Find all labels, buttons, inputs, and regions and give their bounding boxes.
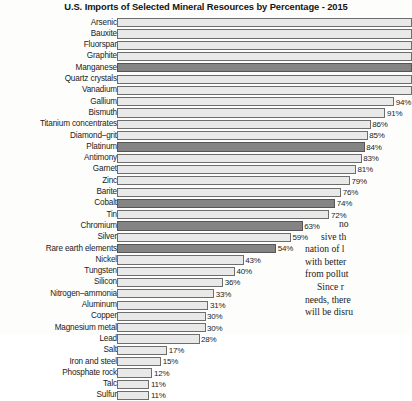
bar[interactable] — [117, 380, 149, 389]
body-text-line: Since r — [305, 281, 412, 294]
bar[interactable] — [117, 301, 208, 310]
body-text-line: no — [305, 218, 412, 231]
category-label: Fluorspar — [0, 40, 117, 50]
category-label: Magnesium metal — [0, 323, 117, 333]
category-label: Titanium concentrates — [0, 119, 117, 129]
bar[interactable] — [117, 368, 152, 377]
bar-value-label: 76% — [343, 188, 358, 197]
bar[interactable] — [117, 255, 244, 264]
bar-track: 94% — [117, 97, 412, 106]
bar[interactable] — [117, 267, 235, 276]
bar[interactable] — [117, 154, 362, 163]
bar-value-label: 28% — [201, 335, 216, 344]
bar[interactable] — [117, 120, 371, 129]
bar-track — [117, 52, 412, 61]
category-label: Nickel — [0, 255, 117, 265]
bar[interactable] — [117, 244, 276, 253]
category-label: Zinc — [0, 176, 117, 186]
category-label: Bismuth — [0, 108, 117, 118]
bar[interactable] — [117, 346, 167, 355]
bar-track — [117, 41, 412, 50]
bar-value-label: 83% — [363, 154, 378, 163]
bar-value-label: 81% — [357, 165, 372, 174]
bar[interactable] — [117, 289, 214, 298]
category-label: Talc — [0, 379, 117, 389]
bar[interactable] — [117, 188, 341, 197]
bar[interactable] — [117, 323, 206, 332]
chart-row: Sulfur11% — [0, 390, 412, 401]
category-label: Graphite — [0, 51, 117, 61]
chart-row: Quartz crystals — [0, 74, 412, 85]
bar[interactable] — [117, 165, 356, 174]
chart-row: Zinc79% — [0, 175, 412, 186]
bar[interactable] — [117, 86, 412, 95]
bar-value-label: 11% — [151, 391, 166, 400]
bar-value-label: 11% — [151, 380, 166, 389]
bar-track: 74% — [117, 199, 412, 208]
bar-value-label: 36% — [225, 278, 240, 287]
bar[interactable] — [117, 131, 368, 140]
bar-value-label: 85% — [369, 131, 384, 140]
chart-row: Magnesium metal30% — [0, 322, 412, 333]
category-label: Quartz crystals — [0, 74, 117, 84]
page-body-text: nosive thnation of lwith betterfrom poll… — [305, 218, 412, 319]
category-label: Platinum — [0, 142, 117, 152]
chart-row: Titanium concentrates86% — [0, 119, 412, 130]
bar[interactable] — [117, 108, 385, 117]
category-label: Vanadium — [0, 85, 117, 95]
chart-row: Arsenic — [0, 17, 412, 28]
bar-value-label: 40% — [237, 267, 252, 276]
category-label: Salt — [0, 345, 117, 355]
category-label: Phosphate rock — [0, 368, 117, 378]
category-label: Diamond–grit — [0, 131, 117, 141]
chart-row: Bauxite — [0, 28, 412, 39]
category-label: Gallium — [0, 97, 117, 107]
category-label: Copper — [0, 311, 117, 321]
bar[interactable] — [117, 357, 161, 366]
bar-track — [117, 29, 412, 38]
bar-track: 30% — [117, 323, 412, 332]
bar[interactable] — [117, 75, 412, 84]
bar[interactable] — [117, 221, 303, 230]
body-text-line: will be disru — [305, 306, 412, 319]
bar-value-label: 33% — [216, 290, 231, 299]
chart-row: Bismuth91% — [0, 107, 412, 118]
bar[interactable] — [117, 312, 206, 321]
bar[interactable] — [117, 176, 350, 185]
bar-value-label: 12% — [154, 369, 169, 378]
chart-row: Diamond–grit85% — [0, 130, 412, 141]
bar[interactable] — [117, 63, 412, 72]
bar[interactable] — [117, 199, 335, 208]
bar[interactable] — [117, 334, 200, 343]
bar-track: 91% — [117, 108, 412, 117]
bar-track — [117, 75, 412, 84]
bar[interactable] — [117, 278, 223, 287]
category-label: Tungsten — [0, 266, 117, 276]
category-label: Silver — [0, 232, 117, 242]
bar[interactable] — [117, 391, 149, 400]
body-text-line: with better — [305, 256, 412, 269]
bar-track: 79% — [117, 176, 412, 185]
bar-track: 11% — [117, 380, 412, 389]
bar[interactable] — [117, 18, 412, 27]
body-text-line: nation of l — [305, 243, 412, 256]
bar[interactable] — [117, 41, 412, 50]
bar[interactable] — [117, 233, 291, 242]
category-label: Cobalt — [0, 198, 117, 208]
bar-value-label: 30% — [207, 312, 222, 321]
chart-row: Graphite — [0, 51, 412, 62]
bar[interactable] — [117, 52, 412, 61]
bar[interactable] — [117, 210, 329, 219]
chart-row: Platinum84% — [0, 141, 412, 152]
bar[interactable] — [117, 29, 412, 38]
category-label: Chromium — [0, 221, 117, 231]
bar-value-label: 31% — [210, 301, 225, 310]
category-label: Bauxite — [0, 29, 117, 39]
bar-value-label: 79% — [352, 177, 367, 186]
chart-row: Vanadium — [0, 85, 412, 96]
category-label: Lead — [0, 334, 117, 344]
chart-row: Cobalt74% — [0, 198, 412, 209]
bar[interactable] — [117, 142, 365, 151]
bar[interactable] — [117, 97, 394, 106]
